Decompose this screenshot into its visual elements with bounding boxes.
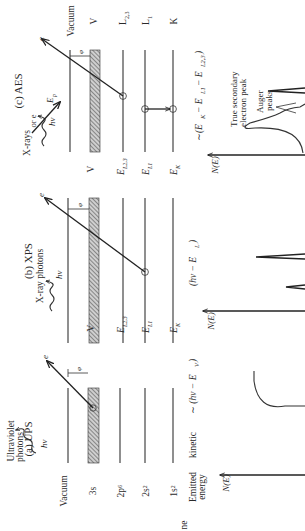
- aes-primary-energy-sub: p: [51, 94, 57, 98]
- xps-level-label-l1: E: [141, 327, 151, 334]
- ups-level-label-3s: 3s: [88, 486, 98, 495]
- aes-left-label-k-sub: K: [175, 164, 181, 170]
- xps-ke-formula: (hν − E: [188, 257, 199, 286]
- xps-spectrum-axis-label: N(E): [206, 312, 216, 331]
- ups-electron-symbol: e: [40, 355, 50, 359]
- aes-annotation-auger-line2: peaks: [264, 90, 274, 111]
- ups-ke-formula-close: ): [188, 359, 199, 363]
- aes-auger-electron-arrow: [42, 39, 123, 96]
- ups-level-label-2s: 2s²: [141, 485, 151, 496]
- ups-spectrum-curve: [254, 371, 305, 407]
- aes-photon-symbol: hν: [47, 118, 57, 127]
- aes-ke-formula-minus2: − E: [194, 71, 204, 86]
- aes-right-label-vacuum: Vacuum: [66, 5, 76, 37]
- aes-title: (c) AES: [12, 73, 25, 108]
- ups-emitted-electron-arrow: [47, 361, 93, 408]
- xps-level-label-k: E: [169, 327, 179, 334]
- xps-peak-small: [286, 285, 305, 289]
- xps-title: (b) XPS: [22, 243, 35, 279]
- ups-level-label-2p: 2p⁶: [116, 485, 126, 498]
- ups-photon-symbol: hν: [39, 440, 49, 449]
- xps-level-label-k-sub: K: [175, 322, 181, 328]
- aes-source-label-line1: X-rays: [22, 130, 32, 156]
- ups-ke-row-label-word: kinetic: [188, 432, 198, 458]
- xps-work-function-symbol: φ: [76, 203, 84, 207]
- xps-source-label: X-ray photons: [35, 248, 45, 303]
- aes-ke-formula-l23: L2,3: [199, 55, 206, 68]
- aes-ke-formula-l1: L1: [199, 87, 206, 95]
- aes-left-label-v: V: [86, 165, 96, 172]
- ups-ke-formula: ∼ (hν − E: [188, 374, 199, 414]
- aes-left-label-l23: E: [116, 169, 126, 176]
- aes-electron-symbol: e: [36, 37, 46, 41]
- aes-right-label-v: V: [89, 17, 99, 24]
- aes-left-label-k: E: [169, 169, 179, 176]
- ups-spectrum-axis-label: N(E): [221, 474, 231, 493]
- aes-photon-wave-icon: [38, 116, 46, 146]
- aes-valence-band: [90, 50, 100, 152]
- xps-level-label-v: V: [86, 324, 96, 331]
- aes-work-function-symbol: φ: [77, 50, 85, 54]
- xps-photon-wave-icon: [46, 281, 54, 311]
- xps-ke-formula-close: ): [188, 240, 199, 244]
- aes-ke-formula-minus1: − E: [194, 98, 204, 113]
- ups-work-function-symbol: φ: [75, 367, 83, 371]
- aes-annotation-secondary-line2: electron peak: [238, 78, 248, 127]
- ups-level-label-1s: 1s²: [169, 485, 179, 496]
- spectroscopy-diagram: (a) UPS Ultraviolet photons hν φ: [0, 0, 305, 531]
- xps-valence-band: [89, 198, 99, 343]
- xps-photon-symbol: hν: [54, 271, 64, 280]
- xps-ke-formula-sub: L: [193, 244, 200, 249]
- xps-electron-symbol: e: [36, 193, 46, 197]
- edge-fragment-label: ne: [179, 521, 189, 530]
- aes-ke-formula-close: ): [194, 51, 205, 55]
- ups-level-label-vacuum: Vacuum: [59, 475, 69, 507]
- ups-valence-band: [88, 388, 99, 463]
- aes-right-label-k: K: [169, 17, 179, 24]
- aes-left-label-l1: E: [141, 169, 151, 176]
- panel-aes: (c) AES X-rays or e hν E p φ: [12, 5, 305, 176]
- aes-right-label-l23-sub: 2,3: [124, 12, 130, 20]
- xps-level-label-l1-sub: L1: [147, 321, 153, 328]
- aes-auger-pointer-2: [276, 103, 296, 107]
- aes-ke-formula: ∼(E: [194, 124, 205, 141]
- figure-stage: (a) UPS Ultraviolet photons hν φ: [0, 0, 305, 531]
- aes-primary-energy-symbol: E: [45, 97, 55, 104]
- aes-left-label-l1-sub: L1: [147, 163, 153, 170]
- aes-right-label-l1-sub: 1: [147, 16, 153, 19]
- xps-peak-large: [256, 254, 305, 259]
- xps-level-label-l23-sub: L2,3: [122, 316, 128, 328]
- aes-spectrum-axis-label: N(E): [210, 156, 220, 175]
- aes-source-label-line2: or e: [28, 114, 38, 127]
- panel-ups: (a) UPS Ultraviolet photons hν φ: [6, 355, 305, 529]
- ups-ke-row-label-line2: energy: [197, 474, 207, 500]
- aes-left-label-l23-sub: L2,3: [122, 158, 128, 170]
- panel-xps: (b) XPS X-ray photons hν φ e V: [22, 193, 305, 343]
- aes-ke-formula-k: K: [199, 114, 206, 120]
- xps-level-label-l23: E: [116, 327, 126, 334]
